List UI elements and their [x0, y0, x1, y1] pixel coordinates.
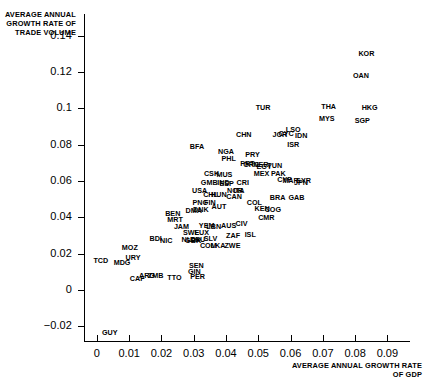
data-point-ner: NER — [253, 162, 268, 169]
y-tick-label: 0 — [26, 284, 72, 295]
data-point-per: PER — [190, 273, 205, 280]
data-point-tur: TUR — [256, 105, 271, 112]
data-point-gbr: GBR — [185, 238, 201, 245]
data-point-mys: MYS — [319, 116, 335, 123]
y-tick-label: −0.02 — [26, 320, 72, 331]
y-tick-mark — [78, 217, 84, 218]
data-point-tcd: TCD — [93, 257, 108, 264]
x-tick-mark — [258, 335, 259, 341]
x-tick-mark — [129, 335, 130, 341]
x-tick-mark — [97, 335, 98, 341]
data-point-dma: DMA — [186, 207, 202, 214]
data-point-cmr: CMR — [258, 215, 274, 222]
data-point-aut: AUT — [212, 203, 227, 210]
y-tick-label: 0.08 — [26, 139, 72, 150]
data-point-phl: PHL — [221, 156, 235, 163]
y-tick-mark — [78, 181, 84, 182]
data-point-cog: COG — [265, 207, 281, 214]
x-tick-mark — [226, 335, 227, 341]
y-tick-mark — [78, 290, 84, 291]
x-tick-mark — [355, 335, 356, 341]
data-point-zwe: ZWE — [224, 242, 240, 249]
data-point-kor: KOR — [358, 50, 374, 57]
data-point-idn: IDN — [295, 132, 307, 139]
x-tick-label: 0.09 — [365, 348, 409, 359]
data-point-nic: NIC — [160, 238, 172, 245]
y-tick-mark — [78, 326, 84, 327]
data-point-tto: TTO — [167, 274, 181, 281]
y-tick-mark — [78, 145, 84, 146]
y-tick-mark — [78, 72, 84, 73]
data-point-oan: OAN — [353, 72, 369, 79]
data-point-lka: LKA — [211, 243, 226, 250]
x-tick-mark — [323, 335, 324, 341]
x-axis-title: AVERAGE ANNUAL GROWTH RATE OF GDP — [286, 361, 422, 379]
data-point-jpn: JPN — [294, 179, 308, 186]
data-point-civ: CIV — [236, 221, 248, 228]
data-point-moz: MOZ — [122, 244, 138, 251]
y-tick-mark — [78, 254, 84, 255]
data-point-sgp: SGP — [355, 118, 370, 125]
data-point-aus: AUS — [221, 223, 236, 230]
data-point-zmb: ZMB — [148, 272, 164, 279]
y-tick-label: 0.12 — [26, 66, 72, 77]
data-point-pry: PRY — [245, 151, 260, 158]
data-point-bra: BRA — [270, 194, 286, 201]
data-point-zaf: ZAF — [226, 232, 240, 239]
data-point-gmb: GMB — [201, 179, 218, 186]
y-tick-label: 0.04 — [26, 211, 72, 222]
data-point-isr: ISR — [287, 141, 299, 148]
y-tick-mark — [78, 108, 84, 109]
x-tick-mark — [161, 335, 162, 341]
x-tick-mark — [194, 335, 195, 341]
data-point-gab: GAB — [288, 194, 304, 201]
x-tick-mark — [387, 335, 388, 341]
data-point-guy: GUY — [102, 329, 118, 336]
x-tick-mark — [291, 335, 292, 341]
y-tick-mark — [78, 36, 84, 37]
y-tick-label: 0.1 — [26, 102, 72, 113]
scatter-chart: AVERAGE ANNUAL GROWTH RATE OF TRADE VOLU… — [0, 0, 426, 389]
y-tick-label: 0.06 — [26, 175, 72, 186]
x-axis-line — [84, 341, 410, 342]
data-point-hkg: HKG — [362, 104, 378, 111]
data-point-mex: MEX — [254, 170, 270, 177]
data-point-tha: THA — [321, 103, 336, 110]
data-point-isl: ISL — [245, 231, 256, 238]
data-point-bfa: BFA — [190, 143, 204, 150]
y-tick-label: 0.14 — [26, 30, 72, 41]
data-point-can: CAN — [226, 194, 242, 201]
data-point-cyc: CYC — [278, 131, 293, 138]
data-point-chn: CHN — [236, 131, 252, 138]
y-tick-label: 0.02 — [26, 248, 72, 259]
data-point-mdg: MDG — [114, 259, 131, 266]
y-axis-line — [84, 14, 85, 341]
